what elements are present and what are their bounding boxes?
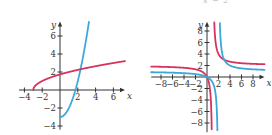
red-curve xyxy=(214,22,264,64)
y-tick-label: −6 xyxy=(190,107,203,117)
y-tick-label: −2 xyxy=(190,84,203,94)
y-tick-label: −4 xyxy=(190,95,203,105)
right-graph: −8−6−4−22468−8−6−4−22468xy xyxy=(151,20,271,132)
x-tick-label: 4 xyxy=(227,79,232,89)
x-tick-label: 6 xyxy=(111,92,116,102)
y-tick-label: 6 xyxy=(198,38,203,48)
x-axis-arrow-icon xyxy=(260,75,265,79)
y-axis-arrow-icon xyxy=(58,22,62,27)
x-tick-label: 2 xyxy=(75,92,80,102)
function-graphs: −4−2246−4−2246xy−8−6−4−22468−8−6−4−22468… xyxy=(0,0,271,135)
x-tick-label: −2 xyxy=(36,92,49,102)
y-tick-label: 2 xyxy=(198,61,203,71)
y-tick-label: −8 xyxy=(190,118,203,128)
y-tick-label: −2 xyxy=(43,103,56,113)
y-tick-label: 6 xyxy=(51,31,56,41)
y-axis-label: y xyxy=(50,20,57,30)
x-tick-label: −4 xyxy=(18,92,31,102)
y-axis-arrow-icon xyxy=(205,22,209,27)
y-tick-label: −4 xyxy=(43,121,56,131)
x-axis-arrow-icon xyxy=(120,88,125,92)
y-axis-label: y xyxy=(197,20,204,30)
blue-curve xyxy=(60,22,89,117)
left-graph: −4−2246−4−2246xy xyxy=(18,20,132,131)
x-tick-label: 8 xyxy=(250,79,255,89)
y-tick-label: 4 xyxy=(51,49,56,59)
y-tick-label: 4 xyxy=(198,49,203,59)
x-axis-label: x xyxy=(127,91,132,101)
x-tick-label: 4 xyxy=(93,92,98,102)
x-axis-label: x xyxy=(267,78,272,88)
x-tick-label: 6 xyxy=(239,79,244,89)
x-tick-label: 2 xyxy=(216,79,221,89)
